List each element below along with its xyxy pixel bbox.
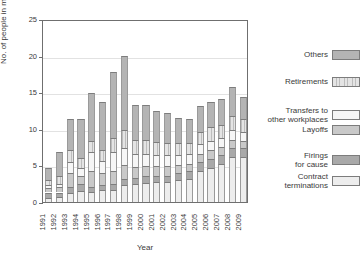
x-tick-label: 2009 <box>234 222 242 231</box>
bar-2009 <box>240 19 247 202</box>
legend-label: Transfers toother workplaces <box>268 106 332 124</box>
bar-segment <box>67 173 74 187</box>
bar-segment <box>175 165 182 173</box>
bar-segment <box>186 154 193 164</box>
bar-segment <box>77 184 84 191</box>
legend-item-others[interactable]: Others <box>252 50 360 60</box>
retirements-swatch <box>332 77 360 87</box>
bar-segment <box>164 143 171 155</box>
y-tick-label: 15 <box>0 89 37 97</box>
bar-segment <box>99 102 106 150</box>
bar-segment <box>99 150 106 161</box>
x-tick-label: 2002 <box>158 222 166 231</box>
bar-segment <box>207 141 214 151</box>
bar-segment <box>207 102 214 128</box>
bar-segment <box>207 127 214 140</box>
bar-segment <box>142 176 149 183</box>
bar-segment <box>229 130 236 140</box>
legend-item-transfers-to[interactable]: Transfers toother workplaces <box>252 106 360 124</box>
bar-segment <box>121 130 128 148</box>
bar-segment <box>240 132 247 141</box>
x-tick-label: 2000 <box>137 222 145 231</box>
bar-segment <box>229 116 236 130</box>
bar-segment <box>153 182 160 202</box>
bar-segment <box>67 119 74 150</box>
bar-segment <box>88 141 95 152</box>
bar-segment <box>45 185 52 188</box>
x-axis-title: Year <box>42 243 248 252</box>
bar-1994 <box>77 19 84 202</box>
bar-segment <box>99 190 106 202</box>
legend-label: Contractterminations <box>284 172 332 190</box>
bar-1993 <box>67 19 74 202</box>
legend-item-layoffs[interactable]: Layoffs <box>252 125 360 135</box>
bar-segment <box>175 143 182 155</box>
bar-segment <box>153 166 160 176</box>
bar-segment <box>240 97 247 119</box>
bar-segment <box>207 159 214 169</box>
bar-2006 <box>207 19 214 202</box>
x-tick-label: 2003 <box>169 222 177 231</box>
bar-segment <box>218 138 225 147</box>
bar-segment <box>121 165 128 179</box>
bar-segment <box>153 155 160 166</box>
bar-segment <box>132 105 139 140</box>
x-tick-label: 1999 <box>126 222 134 231</box>
bar-segment <box>164 166 171 176</box>
bar-segment <box>88 192 95 202</box>
bar-segment <box>218 164 225 202</box>
y-tick-label: 25 <box>0 16 37 24</box>
legend-label: Firingsfor cause <box>295 151 332 169</box>
legend-label: Others <box>304 50 332 59</box>
bar-segment <box>186 179 193 202</box>
bar-segment <box>229 148 236 158</box>
bar-segment <box>240 119 247 132</box>
bar-segment <box>207 168 214 202</box>
bar-segment <box>88 93 95 141</box>
x-tick-label: 1996 <box>93 222 101 231</box>
bar-segment <box>164 182 171 202</box>
bar-segment <box>45 168 52 180</box>
bar-segment <box>56 187 63 192</box>
bar-segment <box>229 87 236 116</box>
bar-segment <box>110 138 117 153</box>
bar-segment <box>153 142 160 155</box>
bar-segment <box>240 157 247 202</box>
x-tick-label: 2008 <box>223 222 231 231</box>
bar-2002 <box>164 19 171 202</box>
bar-1996 <box>99 19 106 202</box>
x-tick-label: 2007 <box>212 222 220 231</box>
bar-segment <box>142 105 149 139</box>
plot-area <box>42 20 248 203</box>
bar-segment <box>45 188 52 192</box>
x-tick-label: 1995 <box>82 222 90 231</box>
bar-1995 <box>88 19 95 202</box>
legend-item-firings[interactable]: Firingsfor cause <box>252 151 360 169</box>
bar-2005 <box>197 19 204 202</box>
bar-1997 <box>110 19 117 202</box>
bar-segment <box>45 198 52 202</box>
y-tick-label: 20 <box>0 53 37 61</box>
bar-segment <box>164 113 171 142</box>
bar-segment <box>197 171 204 202</box>
legend-item-contract[interactable]: Contractterminations <box>252 172 360 190</box>
bar-1992 <box>56 19 63 202</box>
y-tick-label: 5 <box>0 162 37 170</box>
x-tick-label: 1992 <box>50 222 58 231</box>
bar-segment <box>110 190 117 202</box>
bar-segment <box>67 193 74 202</box>
bar-segment <box>186 143 193 154</box>
bar-segment <box>218 155 225 164</box>
legend-item-retirements[interactable]: Retirements <box>252 77 360 87</box>
bar-segment <box>229 140 236 148</box>
x-tick-label: 2001 <box>147 222 155 231</box>
bar-segment <box>132 140 139 154</box>
bar-segment <box>121 185 128 202</box>
firings-swatch <box>332 155 360 165</box>
bar-segment <box>218 125 225 138</box>
bar-segment <box>186 164 193 171</box>
bar-segment <box>56 176 63 184</box>
bar-segment <box>164 176 171 182</box>
bar-2008 <box>229 19 236 202</box>
bar-segment <box>175 180 182 202</box>
